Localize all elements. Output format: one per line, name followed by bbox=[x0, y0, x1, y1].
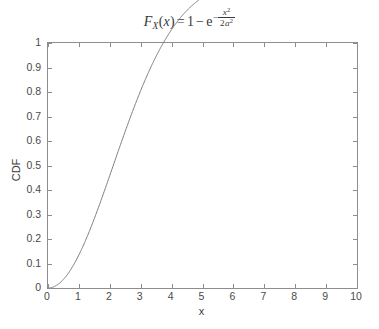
y-tick-mark bbox=[48, 288, 52, 289]
y-tick-mark bbox=[353, 190, 357, 191]
y-tick-label-text: 0.7 bbox=[26, 110, 41, 122]
x-tick-mark bbox=[295, 284, 296, 288]
x-axis-title: x bbox=[47, 305, 356, 317]
x-tick-mark bbox=[141, 43, 142, 47]
y-tick-label-text: 0.4 bbox=[26, 183, 41, 195]
x-tick-mark bbox=[295, 43, 296, 47]
y-tick-label-text: 0.3 bbox=[26, 208, 41, 220]
plot-area bbox=[47, 42, 358, 289]
x-tick-label: 9 bbox=[322, 290, 328, 302]
x-tick-mark bbox=[233, 284, 234, 288]
y-tick-mark bbox=[353, 141, 357, 142]
y-tick-label: 0.8 bbox=[41, 85, 56, 97]
y-tick-label-text: 0.5 bbox=[26, 159, 41, 171]
y-tick-mark bbox=[353, 166, 357, 167]
cdf-curve bbox=[48, 43, 357, 288]
x-tick-mark bbox=[357, 284, 358, 288]
y-tick-mark bbox=[353, 264, 357, 265]
y-tick-mark bbox=[48, 43, 52, 44]
title-exponent-fraction: x22a2 bbox=[218, 7, 235, 30]
y-tick-label-text: 1 bbox=[35, 36, 41, 48]
x-tick-mark bbox=[233, 43, 234, 47]
y-tick-label-text: 0.2 bbox=[26, 232, 41, 244]
x-tick-mark bbox=[79, 284, 80, 288]
y-tick-label: 0 bbox=[41, 281, 47, 293]
y-axis-title: CDF bbox=[10, 150, 22, 190]
y-tick-label: 0.4 bbox=[41, 183, 56, 195]
title-exponent-den-power: 2 bbox=[230, 17, 233, 24]
y-tick-label: 0.7 bbox=[41, 110, 56, 122]
x-tick-mark bbox=[357, 43, 358, 47]
x-tick-label: 7 bbox=[260, 290, 266, 302]
title-function-symbol: F bbox=[144, 14, 153, 29]
x-tick-label: 3 bbox=[137, 290, 143, 302]
x-tick-mark bbox=[203, 43, 204, 47]
title-exponent-group: −x22a2 bbox=[213, 7, 236, 30]
y-tick-label: 0.6 bbox=[41, 134, 56, 146]
y-tick-label: 1 bbox=[41, 36, 47, 48]
y-tick-label-text: 0 bbox=[35, 281, 41, 293]
x-tick-mark bbox=[326, 43, 327, 47]
x-tick-mark bbox=[203, 284, 204, 288]
figure-canvas: FX(x)=1−e−x22a2 012345678910 00.10.20.30… bbox=[0, 0, 379, 329]
x-tick-mark bbox=[110, 43, 111, 47]
x-tick-label: 4 bbox=[168, 290, 174, 302]
x-tick-mark bbox=[264, 43, 265, 47]
x-tick-label: 6 bbox=[229, 290, 235, 302]
y-tick-mark bbox=[353, 117, 357, 118]
y-tick-label: 0.1 bbox=[41, 257, 56, 269]
x-tick-label: 1 bbox=[75, 290, 81, 302]
y-tick-label: 0.9 bbox=[41, 61, 56, 73]
y-tick-label: 0.5 bbox=[41, 159, 56, 171]
x-tick-mark bbox=[264, 284, 265, 288]
x-tick-label: 10 bbox=[350, 290, 362, 302]
y-tick-label: 0.2 bbox=[41, 232, 56, 244]
title-exponent-denominator: 2a2 bbox=[218, 18, 235, 29]
y-tick-label: 0.3 bbox=[41, 208, 56, 220]
y-tick-label-text: 0.8 bbox=[26, 85, 41, 97]
y-tick-mark bbox=[353, 68, 357, 69]
y-tick-mark bbox=[353, 43, 357, 44]
x-tick-label: 5 bbox=[199, 290, 205, 302]
title-minus-sign: − bbox=[194, 14, 206, 29]
y-tick-mark bbox=[353, 239, 357, 240]
x-tick-label: 2 bbox=[106, 290, 112, 302]
y-tick-label-text: 0.9 bbox=[26, 61, 41, 73]
x-tick-mark bbox=[141, 284, 142, 288]
y-tick-label-text: 0.6 bbox=[26, 134, 41, 146]
y-tick-mark bbox=[353, 215, 357, 216]
x-tick-label: 8 bbox=[291, 290, 297, 302]
x-tick-mark bbox=[172, 284, 173, 288]
x-tick-mark bbox=[79, 43, 80, 47]
chart-title: FX(x)=1−e−x22a2 bbox=[0, 8, 379, 31]
y-tick-label-text: 0.1 bbox=[26, 257, 41, 269]
y-tick-mark bbox=[353, 288, 357, 289]
x-tick-mark bbox=[326, 284, 327, 288]
title-exponent-num-power: 2 bbox=[227, 6, 230, 13]
x-tick-mark bbox=[110, 284, 111, 288]
y-tick-mark bbox=[353, 92, 357, 93]
x-tick-mark bbox=[172, 43, 173, 47]
